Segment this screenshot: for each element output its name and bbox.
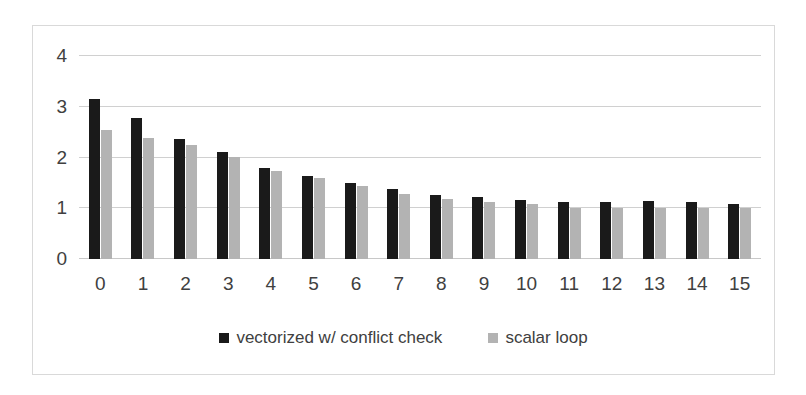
y-tick-label: 4 — [56, 46, 67, 65]
bar — [101, 130, 112, 259]
bar-group — [686, 56, 709, 259]
bar — [527, 204, 538, 259]
bar — [740, 208, 751, 259]
bar-group — [558, 56, 581, 259]
bar — [612, 208, 623, 259]
bar — [430, 195, 441, 259]
x-tick-label: 5 — [308, 274, 319, 293]
legend-swatch-icon — [219, 333, 229, 343]
bar — [314, 178, 325, 259]
bar-group — [472, 56, 495, 259]
bar-group — [600, 56, 623, 259]
bar-group — [643, 56, 666, 259]
x-tick-label: 15 — [729, 274, 750, 293]
x-tick-label: 4 — [266, 274, 277, 293]
bar — [186, 145, 197, 259]
bar — [271, 171, 282, 259]
chart-legend: vectorized w/ conflict checkscalar loop — [33, 329, 774, 346]
bar-group — [387, 56, 410, 259]
x-tick-label: 14 — [686, 274, 707, 293]
plot-area: 01234 — [79, 56, 761, 259]
bar — [302, 176, 313, 259]
bar — [217, 152, 228, 259]
bar — [174, 139, 185, 259]
x-tick-label: 1 — [138, 274, 149, 293]
legend-swatch-icon — [488, 333, 498, 343]
x-tick-label: 11 — [559, 274, 579, 293]
x-tick-label: 2 — [180, 274, 191, 293]
x-tick-label: 7 — [393, 274, 404, 293]
x-tick-label: 12 — [601, 274, 622, 293]
bar — [442, 199, 453, 259]
x-tick-label: 6 — [351, 274, 362, 293]
bar — [600, 202, 611, 259]
bar — [357, 186, 368, 259]
bar — [131, 118, 142, 259]
bar — [698, 208, 709, 259]
bar-chart-figure: 01234 0123456789101112131415 vectorized … — [0, 0, 806, 395]
y-tick-label: 2 — [56, 147, 67, 166]
bar-group — [430, 56, 453, 259]
x-tick-label: 0 — [95, 274, 106, 293]
legend-entry: scalar loop — [488, 329, 587, 346]
legend-entry: vectorized w/ conflict check — [219, 329, 442, 346]
bar-group — [515, 56, 538, 259]
bar — [345, 183, 356, 259]
bar — [515, 200, 526, 259]
bar — [89, 99, 100, 259]
bar — [484, 202, 495, 259]
bar — [259, 168, 270, 259]
x-tick-label: 10 — [516, 274, 537, 293]
bar-group — [217, 56, 240, 259]
bar-group — [89, 56, 112, 259]
bar — [143, 138, 154, 259]
y-tick-label: 0 — [56, 249, 67, 268]
bar-group — [131, 56, 154, 259]
bar-group — [728, 56, 751, 259]
x-tick-label: 9 — [479, 274, 490, 293]
bar — [558, 202, 569, 259]
bar-group — [302, 56, 325, 259]
bar — [655, 208, 666, 259]
chart-frame: 01234 0123456789101112131415 vectorized … — [32, 25, 775, 375]
x-tick-label: 3 — [223, 274, 234, 293]
bar-group — [174, 56, 197, 259]
legend-label: vectorized w/ conflict check — [236, 329, 442, 346]
bar — [686, 202, 697, 259]
bar — [472, 197, 483, 259]
bar-group — [345, 56, 368, 259]
x-tick-label: 13 — [644, 274, 665, 293]
bars-layer — [79, 56, 761, 259]
bar-group — [259, 56, 282, 259]
bar — [229, 157, 240, 260]
x-tick-label: 8 — [436, 274, 447, 293]
bar — [728, 204, 739, 259]
bar — [387, 189, 398, 259]
bar — [570, 208, 581, 259]
bar — [643, 201, 654, 259]
bar — [399, 194, 410, 259]
legend-label: scalar loop — [505, 329, 587, 346]
x-axis-tick-labels: 0123456789101112131415 — [79, 274, 761, 304]
y-tick-label: 1 — [56, 198, 67, 217]
y-tick-label: 3 — [56, 96, 67, 115]
